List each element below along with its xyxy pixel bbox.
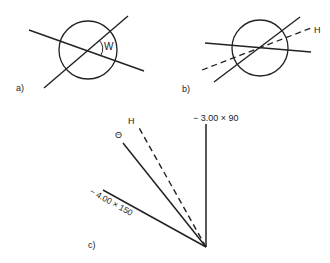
panel-b: H b) (182, 17, 321, 94)
axis-line-a1 (29, 30, 144, 71)
axis-label-h-c: H (128, 116, 135, 126)
theta-label: Θ (115, 130, 122, 140)
resultant-axis-b (202, 28, 311, 70)
diagram-canvas: W a) H b) − 3.00 × 90 H Θ − 4.00 × 150 c… (0, 0, 330, 263)
angle-label-w: W (104, 41, 114, 52)
axis-line-a2 (44, 16, 128, 88)
axis-line-b1 (205, 43, 311, 52)
axis-label-h-b: H (314, 25, 321, 35)
theta-line (123, 143, 206, 247)
panel-a: W a) (16, 16, 144, 93)
panel-label-a: a) (16, 83, 24, 93)
panel-label-b: b) (182, 84, 190, 94)
meridian-90-label: − 3.00 × 90 (193, 113, 239, 123)
panel-c: − 3.00 × 90 H Θ − 4.00 × 150 c) (88, 113, 239, 250)
angle-arc-w (99, 40, 103, 55)
meridian-150-label: − 4.00 × 150 (88, 186, 135, 218)
panel-label-c: c) (88, 240, 96, 250)
